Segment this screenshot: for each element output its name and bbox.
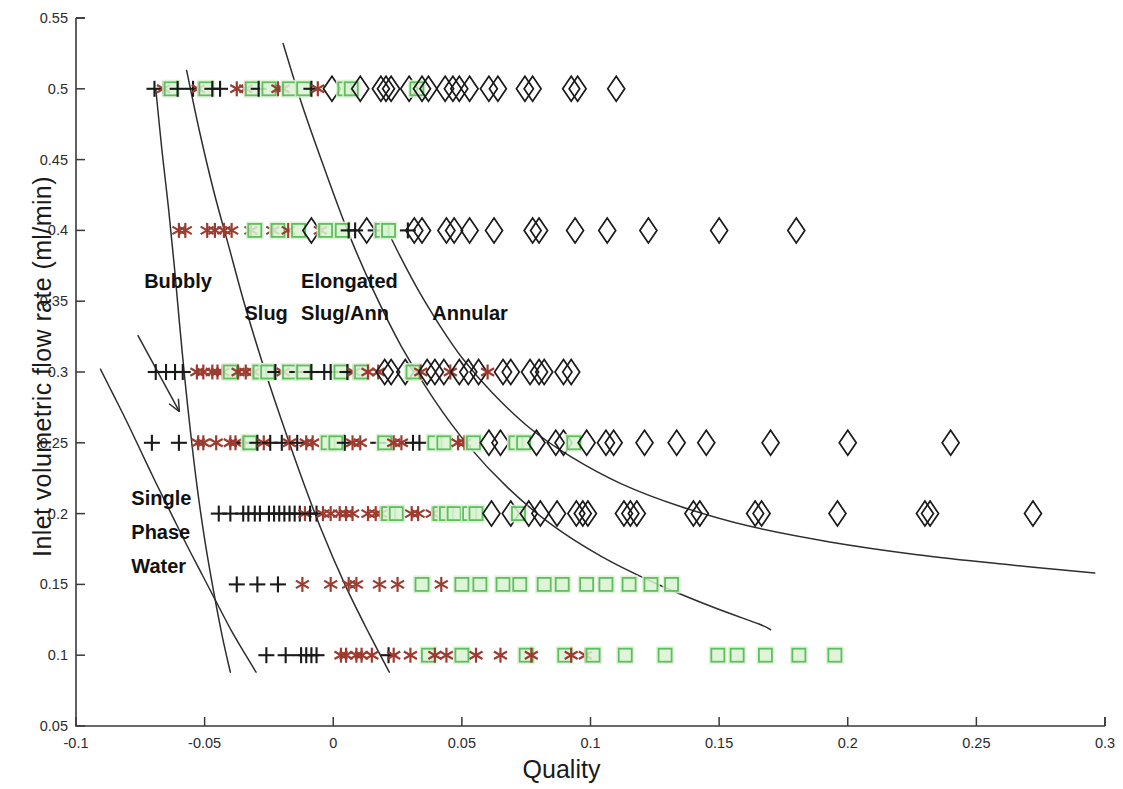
dark-red-asterisk-marker [208, 223, 221, 238]
black-diamond-marker [636, 430, 653, 455]
y-tick-label-0.55: 0.55 [40, 10, 68, 26]
black-diamond-marker [486, 218, 503, 243]
black-diamond-marker [608, 76, 625, 101]
bubbly-slug-boundary [156, 89, 231, 672]
arrow-head-b [178, 399, 179, 412]
black-diamond-marker [839, 430, 856, 455]
arrow-shaft [138, 335, 180, 411]
black-diamond-marker [563, 76, 580, 101]
black-plus-marker [249, 576, 265, 592]
black-diamond-marker [531, 218, 548, 243]
black-plus-marker [270, 576, 286, 592]
black-diamond-marker [569, 76, 586, 101]
bubbly-pointer [138, 335, 180, 411]
region-label-slug: Slug [244, 302, 287, 324]
black-diamond-marker [461, 76, 478, 101]
x-tick-label-0.2: 0.2 [838, 735, 858, 751]
y-axis-title: Inlet volumetric flow rate (ml/min) [28, 117, 57, 617]
black-plus-marker [258, 647, 274, 663]
black-diamond-marker [524, 218, 541, 243]
black-diamond-marker [492, 430, 509, 455]
dark-red-asterisk-marker [404, 648, 417, 663]
dark-red-asterisk-marker [391, 577, 404, 592]
black-diamond-marker [829, 501, 846, 526]
series-y=0.15 [229, 575, 681, 593]
annular-upper-boundary [387, 230, 1094, 573]
black-diamond-marker [698, 430, 715, 455]
black-diamond-marker [916, 501, 933, 526]
x-tick-label-0.05: 0.05 [448, 735, 476, 751]
dark-red-asterisk-marker [373, 577, 386, 592]
black-plus-marker [144, 435, 160, 451]
black-diamond-marker [377, 76, 394, 101]
dark-red-asterisk-marker [324, 577, 337, 592]
flow-regime-map-figure: 0.050.10.150.20.250.30.350.40.450.50.55-… [0, 0, 1123, 789]
black-diamond-marker [762, 430, 779, 455]
series-y=0.1 [258, 646, 844, 664]
dark-red-asterisk-marker [440, 648, 453, 663]
black-diamond-marker [691, 501, 708, 526]
region-label-elongated: Elongated [301, 270, 398, 292]
black-diamond-marker [372, 76, 389, 101]
black-diamond-marker [549, 501, 566, 526]
x-tick-label--0.05: -0.05 [188, 735, 221, 751]
series-y=0.5 [146, 76, 624, 101]
x-tick-label-0.15: 0.15 [705, 735, 733, 751]
black-diamond-marker [567, 218, 584, 243]
x-axis-title: Quality [0, 755, 1123, 784]
elongated-annular-boundary [283, 43, 770, 629]
black-diamond-marker [788, 218, 805, 243]
black-diamond-marker [568, 501, 585, 526]
dark-red-asterisk-marker [470, 648, 483, 663]
y-tick-label-0.05: 0.05 [40, 718, 68, 734]
black-diamond-marker [942, 430, 959, 455]
region-label-slug-ann: Slug/Ann [301, 302, 389, 324]
black-diamond-marker [711, 218, 728, 243]
region-label-bubbly: Bubbly [144, 270, 213, 292]
black-diamond-marker [640, 218, 657, 243]
black-plus-marker [146, 81, 162, 97]
dark-red-asterisk-marker [239, 365, 252, 380]
black-plus-marker [175, 364, 191, 380]
series-y=0.2 [211, 501, 1042, 526]
black-diamond-marker [480, 430, 497, 455]
black-plus-marker [171, 435, 187, 451]
x-tick-label-0.3: 0.3 [1095, 735, 1115, 751]
dark-red-asterisk-marker [296, 577, 309, 592]
black-diamond-marker [622, 501, 639, 526]
region-label-single: Single [131, 487, 191, 509]
dark-red-asterisk-marker [350, 577, 363, 592]
black-diamond-marker [747, 501, 764, 526]
x-tick-label-0.1: 0.1 [580, 735, 600, 751]
dark-red-asterisk-marker [210, 435, 223, 450]
black-diamond-marker [574, 501, 591, 526]
dark-red-asterisk-marker [494, 648, 507, 663]
series-y=0.3 [148, 360, 580, 385]
dark-red-asterisk-marker [354, 435, 367, 450]
dark-red-asterisk-marker [201, 223, 214, 238]
black-diamond-marker [579, 501, 596, 526]
black-diamond-marker [532, 501, 549, 526]
black-plus-marker [278, 647, 294, 663]
black-diamond-marker [1024, 501, 1041, 526]
region-label-annular: Annular [432, 302, 508, 324]
series-y=0.4 [172, 218, 804, 243]
dark-red-asterisk-marker [225, 223, 238, 238]
y-tick-label-0.1: 0.1 [48, 647, 68, 663]
region-label-water: Water [131, 555, 186, 577]
dark-red-asterisk-marker [230, 81, 243, 96]
dark-red-asterisk-marker [324, 506, 337, 521]
dark-red-asterisk-marker [365, 648, 378, 663]
dark-red-asterisk-marker [361, 506, 374, 521]
black-diamond-marker [483, 501, 500, 526]
x-tick-label--0.1: -0.1 [64, 735, 89, 751]
black-diamond-marker [685, 501, 702, 526]
black-diamond-marker [599, 218, 616, 243]
region-label-phase: Phase [131, 521, 190, 543]
black-diamond-marker [668, 430, 685, 455]
black-diamond-marker [922, 501, 939, 526]
black-diamond-marker [383, 76, 400, 101]
black-diamond-marker [628, 501, 645, 526]
dark-red-asterisk-marker [217, 223, 230, 238]
black-diamond-marker [753, 501, 770, 526]
